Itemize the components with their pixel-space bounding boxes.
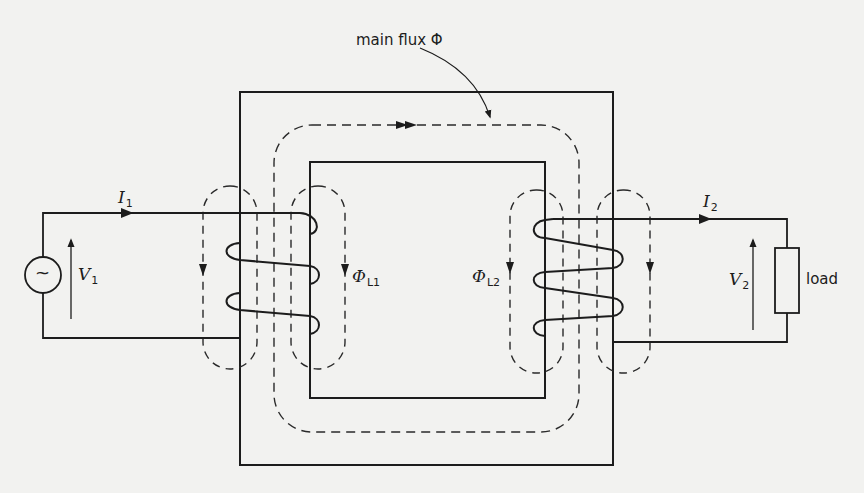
leakage-flux-1-subscript: L1 bbox=[367, 276, 380, 289]
secondary-current-label: I2 bbox=[703, 193, 718, 213]
secondary-voltage-subscript: 2 bbox=[742, 279, 749, 292]
transformer-core bbox=[240, 92, 613, 465]
diagram-canvas bbox=[0, 0, 864, 493]
primary-current-subscript: 1 bbox=[126, 197, 133, 210]
secondary-current-symbol: I bbox=[703, 191, 710, 211]
ac-source-symbol: ~ bbox=[35, 264, 50, 282]
main-flux-arrow-icon bbox=[396, 121, 417, 129]
leakage-flux-2-label: ΦL2 bbox=[472, 268, 500, 288]
primary-voltage-symbol: V bbox=[78, 264, 90, 284]
secondary-circuit bbox=[553, 219, 787, 342]
core-outer-edge bbox=[240, 92, 613, 465]
primary-current-label: I1 bbox=[118, 189, 133, 209]
leakage-flux-2-symbol: Φ bbox=[472, 266, 486, 286]
secondary-voltage-symbol: V bbox=[729, 269, 741, 289]
secondary-leakage-flux bbox=[510, 190, 650, 373]
primary-voltage-subscript: 1 bbox=[91, 274, 98, 287]
leakage-arrow-icon bbox=[506, 262, 654, 274]
core-window bbox=[310, 162, 545, 398]
transformer-diagram: main flux Φ I1 ~ V1 ΦL1 ΦL2 I2 V2 load bbox=[0, 0, 864, 493]
main-flux-pointer bbox=[420, 48, 490, 117]
primary-voltage-label: V1 bbox=[78, 266, 98, 286]
secondary-voltage-label: V2 bbox=[729, 271, 749, 291]
load-label: load bbox=[806, 272, 838, 287]
leakage-flux-1-label: ΦL1 bbox=[352, 268, 380, 288]
load-resistor bbox=[775, 248, 799, 313]
secondary-current-subscript: 2 bbox=[711, 201, 718, 214]
leakage-flux-1-symbol: Φ bbox=[352, 266, 366, 286]
main-flux-label: main flux Φ bbox=[356, 33, 443, 48]
secondary-winding bbox=[534, 219, 623, 336]
primary-current-symbol: I bbox=[118, 187, 125, 207]
leakage-flux-2-subscript: L2 bbox=[487, 276, 500, 289]
